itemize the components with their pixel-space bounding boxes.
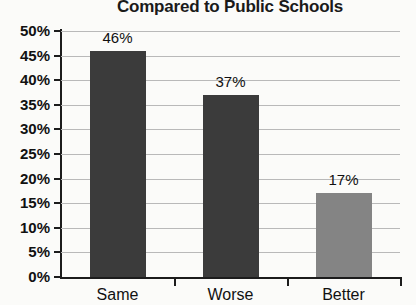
x-axis-label-better: Better (284, 285, 404, 305)
x-axis-label-same: Same (58, 285, 178, 305)
bar-value-label-same: 46% (73, 30, 163, 46)
y-axis-tick (54, 202, 61, 204)
bar-value-label-better: 17% (299, 172, 389, 188)
chart-screenshot: Compared to Public Schools 50%45%40%35%3… (0, 0, 416, 305)
y-axis-tick-label: 25% (0, 146, 50, 161)
y-axis-tick (54, 251, 61, 253)
y-axis-tick-label: 20% (0, 171, 50, 186)
bar-value-label-worse: 37% (186, 74, 276, 90)
y-axis-tick (54, 227, 61, 229)
y-axis-tick-label: 35% (0, 97, 50, 112)
y-axis-tick (54, 104, 61, 106)
x-axis-label-worse: Worse (171, 285, 291, 305)
y-axis-tick-label: 10% (0, 220, 50, 235)
y-axis-tick-label: 30% (0, 121, 50, 136)
plot-area (61, 31, 400, 277)
y-axis-tick-label: 0% (0, 269, 50, 284)
y-axis-tick-label: 15% (0, 195, 50, 210)
y-axis-tick-label: 50% (0, 23, 50, 38)
chart-title: Compared to Public Schools (60, 0, 400, 18)
x-axis-line (60, 277, 401, 279)
y-axis-tick (54, 153, 61, 155)
y-axis-tick-label: 40% (0, 72, 50, 87)
y-axis-tick (54, 178, 61, 180)
y-axis-tick (54, 55, 61, 57)
y-axis-tick-label: 5% (0, 244, 50, 259)
y-axis-tick-label: 45% (0, 48, 50, 63)
bar-same (90, 51, 146, 277)
bar-worse (203, 95, 259, 277)
y-axis-tick (54, 79, 61, 81)
y-axis-tick (54, 128, 61, 130)
y-axis-tick (54, 30, 61, 32)
bar-better (316, 193, 372, 277)
y-axis-tick (54, 276, 61, 278)
